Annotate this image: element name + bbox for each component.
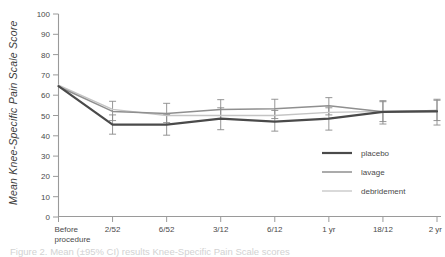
pain-scale-line-chart: Mean Knee-Specific Pain Scale Score 0102… (0, 0, 445, 257)
figure-caption-text: Figure 2. Mean (±95% CI) results Knee-Sp… (10, 246, 290, 257)
chart-series-layer (59, 85, 441, 135)
figure-container: Mean Knee-Specific Pain Scale Score 0102… (0, 0, 445, 257)
chart-legend: placebolavagedebridement (322, 149, 406, 196)
series-line-placebo (59, 86, 438, 125)
y-tick-label: 0 (46, 213, 51, 222)
y-tick-label: 100 (37, 10, 51, 19)
x-tick-label: 2 yr (429, 225, 443, 234)
x-tick-label: 18/12 (373, 225, 394, 234)
x-tick-label: 6/52 (159, 225, 175, 234)
y-axis-ticks: 0102030405060708090100 (37, 10, 59, 222)
error-bars-lavage (109, 98, 440, 123)
x-axis-ticks: Beforeprocedure2/526/523/126/121 yr18/12… (55, 217, 443, 244)
figure-caption: Figure 2. Mean (±95% CI) results Knee-Sp… (10, 246, 290, 257)
y-tick-label: 60 (41, 91, 50, 100)
legend-label-lavage: lavage (361, 168, 385, 177)
y-tick-label: 40 (41, 132, 50, 141)
y-tick-label: 20 (41, 172, 50, 181)
x-tick-label: Before (55, 225, 79, 234)
x-tick-label: 3/12 (213, 225, 229, 234)
y-tick-label: 90 (41, 30, 50, 39)
y-axis-title: Mean Knee-Specific Pain Scale Score (7, 21, 19, 205)
x-tick-label: 6/12 (267, 225, 283, 234)
legend-label-debridement: debridement (361, 187, 406, 196)
y-tick-label: 30 (41, 152, 50, 161)
y-tick-label: 80 (41, 51, 50, 60)
x-tick-label: 2/52 (105, 225, 121, 234)
y-tick-label: 50 (41, 112, 50, 121)
y-axis-title-text: Mean Knee-Specific Pain Scale Score (7, 21, 19, 205)
x-tick-label: 1 yr (322, 225, 336, 234)
y-tick-label: 70 (41, 71, 50, 80)
y-tick-label: 10 (41, 193, 50, 202)
legend-label-placebo: placebo (361, 149, 390, 158)
x-tick-label: procedure (55, 235, 92, 244)
